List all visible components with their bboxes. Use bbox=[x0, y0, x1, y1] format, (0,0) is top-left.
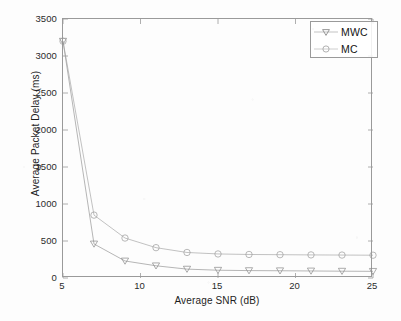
legend-entry-mc: MC bbox=[311, 40, 377, 58]
x-tick-label: 25 bbox=[367, 280, 378, 291]
legend-entry-mwc: MWC bbox=[311, 23, 377, 41]
x-tick-label: 15 bbox=[212, 280, 223, 291]
chart-figure: 0500100015002000250030003500 510152025 A… bbox=[0, 0, 401, 321]
x-tick-label: 10 bbox=[134, 280, 145, 291]
y-tick-label: 500 bbox=[41, 235, 57, 246]
y-tick-label: 3500 bbox=[35, 13, 57, 24]
legend-label-mwc: MWC bbox=[341, 26, 368, 38]
x-axis-title: Average SNR (dB) bbox=[62, 295, 372, 306]
legend-label-mc: MC bbox=[341, 43, 358, 55]
y-axis-title: Average Packet Delay (ms) bbox=[30, 34, 41, 234]
legend-marker-mwc-icon bbox=[311, 23, 341, 41]
x-tick-label: 5 bbox=[59, 280, 64, 291]
x-axis-tick-labels: 510152025 bbox=[62, 280, 372, 294]
y-tick-label: 0 bbox=[52, 272, 57, 283]
legend-marker-mc-icon bbox=[311, 40, 341, 58]
y-axis-tick-labels: 0500100015002000250030003500 bbox=[0, 18, 57, 277]
x-tick-label: 20 bbox=[289, 280, 300, 291]
chart-legend: MWC MC bbox=[310, 21, 378, 58]
